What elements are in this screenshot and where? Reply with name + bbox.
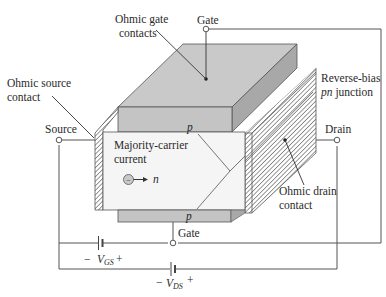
svg-text:+: + (116, 253, 123, 265)
bottom-gate-block (118, 210, 245, 222)
gate-bottom-terminal (170, 240, 176, 246)
pn-junction-label: pn junction (320, 86, 373, 99)
majority-carrier-label-2: current (114, 153, 147, 165)
vds-label: − V DS + (156, 274, 194, 291)
source-label: Source (45, 123, 77, 135)
ohmic-drain-contact-label: Ohmic drain (279, 185, 337, 197)
battery-vgs (99, 236, 103, 250)
drain-label: Drain (325, 123, 351, 135)
jfet-diagram: − n Ohmic gate contacts Gate Ohmic sourc… (0, 0, 386, 297)
svg-text:−: − (84, 253, 91, 265)
bottom-gate-front (118, 210, 231, 222)
reverse-bias-label: Reverse-bias (321, 72, 381, 84)
ohmic-gate-contacts-label: Ohmic gate (115, 13, 168, 26)
ohmic-source-contact-label: Ohmic source (7, 77, 71, 89)
source-terminal (56, 137, 62, 143)
gate-bottom-label: Gate (178, 227, 200, 239)
p-region-top-label: p (186, 121, 193, 134)
top-gate-front-face (118, 107, 232, 132)
ohmic-drain-contact-label-2: contact (279, 199, 313, 211)
ohmic-gate-contacts-label-2: contacts (119, 27, 157, 39)
carrier-n-label: n (153, 173, 159, 185)
battery-vds (171, 262, 175, 276)
svg-text:−: − (156, 276, 163, 288)
svg-text:GS: GS (104, 258, 114, 267)
drain-terminal (334, 137, 340, 143)
gate-top-label: Gate (197, 14, 219, 26)
electron-sign: − (126, 176, 131, 185)
vgs-label: − V GS + (84, 253, 123, 267)
svg-text:+: + (187, 274, 194, 286)
svg-text:DS: DS (172, 282, 183, 291)
ohmic-source-contact-label-2: contact (7, 91, 41, 103)
p-region-bottom-label: p (185, 210, 192, 223)
majority-carrier-label: Majority-carrier (114, 139, 188, 152)
gate-top-terminal (203, 26, 209, 32)
